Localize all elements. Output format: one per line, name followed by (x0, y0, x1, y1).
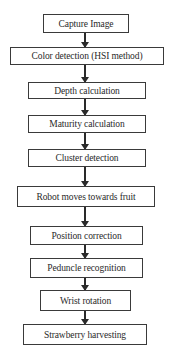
step-label: Maturity calculation (49, 119, 124, 129)
arrow-down-icon (84, 278, 86, 290)
arrow-down-icon (84, 99, 86, 115)
step-label: Wrist rotation (60, 296, 111, 306)
arrow-down-icon (84, 311, 86, 324)
step-maturity-calculation: Maturity calculation (28, 115, 146, 133)
step-label: Color detection (HSI method) (32, 51, 143, 61)
arrow-down-icon (84, 207, 86, 226)
step-label: Depth calculation (54, 86, 120, 96)
step-label: Peduncle recognition (47, 263, 125, 273)
step-label: Cluster detection (56, 153, 119, 163)
step-robot-moves: Robot moves towards fruit (17, 186, 155, 207)
arrow-down-icon (84, 245, 86, 258)
step-cluster-detection: Cluster detection (28, 149, 146, 167)
arrow-down-icon (84, 167, 86, 186)
step-peduncle-recognition: Peduncle recognition (30, 258, 143, 278)
step-label: Strawberry harvesting (44, 330, 126, 340)
step-wrist-rotation: Wrist rotation (40, 290, 131, 311)
step-position-correction: Position correction (30, 226, 143, 245)
step-label: Robot moves towards fruit (36, 192, 135, 202)
step-label: Capture Image (59, 19, 114, 29)
arrow-down-icon (84, 133, 86, 149)
step-strawberry-harvesting: Strawberry harvesting (23, 324, 147, 345)
step-color-detection: Color detection (HSI method) (10, 47, 164, 65)
step-depth-calculation: Depth calculation (28, 82, 146, 99)
step-label: Position correction (51, 231, 121, 241)
arrow-down-icon (84, 65, 86, 82)
step-capture-image: Capture Image (43, 14, 129, 33)
arrow-down-icon (84, 33, 86, 47)
